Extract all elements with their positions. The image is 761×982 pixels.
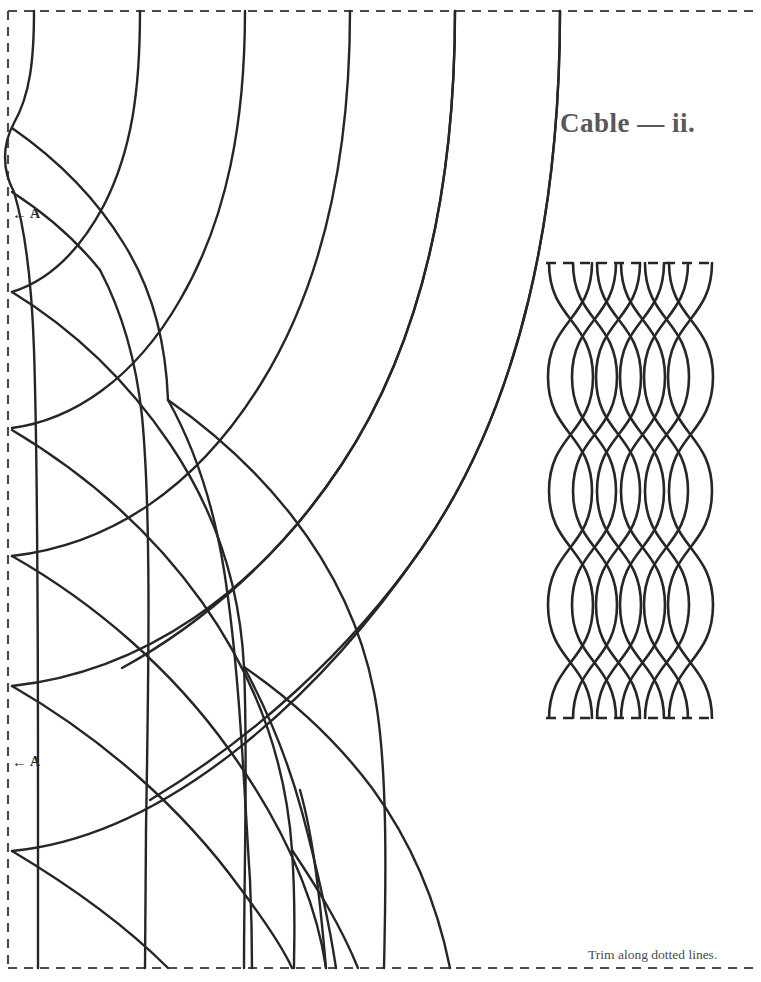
lattice-arc-c2 (100, 270, 149, 968)
lattice-arc-a1 (5, 11, 34, 192)
lattice-arc-d1 (168, 400, 385, 968)
lattice-arc-a3 (12, 11, 245, 428)
lattice-descending-arcs (5, 11, 560, 851)
lattice-arc-b2 (12, 292, 246, 968)
lattice-arc-right-outer (150, 11, 560, 800)
lattice-arc-a2 (12, 11, 140, 292)
cable-pattern-sheet: Cable — ii. Trim along dotted lines. ← A… (0, 0, 761, 982)
left-arrow-icon: ← (12, 207, 27, 222)
lattice-arc-a4 (12, 11, 350, 556)
registration-marker-a-top: ← A (12, 206, 40, 222)
registration-marker-label: A (30, 206, 40, 222)
lattice-arc-b0 (12, 192, 100, 270)
cable-braid-swatch (546, 263, 716, 719)
registration-marker-a-bottom: ← A (12, 754, 40, 770)
registration-marker-label: A (30, 754, 40, 770)
lattice-arc-c3 (168, 400, 252, 968)
pattern-drawing (0, 0, 761, 982)
lattice-arc-a6 (12, 11, 560, 851)
lattice-arc-b5 (12, 686, 292, 968)
trim-frame (8, 11, 755, 968)
braid-strands (548, 263, 713, 719)
page-title: Cable — ii. (560, 108, 695, 139)
swatch-trim-edges (546, 263, 716, 718)
lattice-arc-b3 (12, 430, 295, 968)
left-arrow-icon: ← (12, 755, 27, 770)
lattice-arc-d2 (244, 667, 450, 968)
lattice-right-sweep (122, 11, 560, 800)
trim-instruction: Trim along dotted lines. (588, 947, 717, 963)
